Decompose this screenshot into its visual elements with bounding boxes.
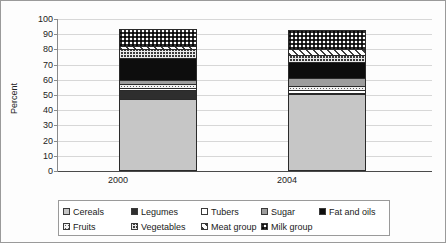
gridline-20: [58, 141, 432, 142]
y-tick-50: 50: [25, 91, 53, 99]
gridline-60: [58, 80, 432, 81]
y-axis-title: Percent: [9, 53, 23, 143]
legend-item-cereals[interactable]: Cereals: [63, 207, 131, 217]
y-tick-60: 60: [25, 76, 53, 84]
segment-cereals-2004[interactable]: [288, 94, 366, 171]
legend-swatch-icon: [319, 208, 326, 215]
legend-item-milk-group[interactable]: Milk group: [261, 222, 313, 232]
gridline-30: [58, 125, 432, 126]
gridline-50: [58, 95, 432, 96]
y-tick-90: 90: [25, 30, 53, 38]
segment-fat-and-oils-2004[interactable]: [288, 62, 366, 78]
legend-swatch-icon: [131, 223, 138, 230]
legend-swatch-icon: [63, 223, 70, 230]
segment-fruits-2000[interactable]: [119, 84, 197, 88]
segment-fruits-2004[interactable]: [288, 86, 366, 91]
segment-tubers-2004[interactable]: [288, 90, 366, 92]
legend-label: Fat and oils: [329, 207, 376, 217]
y-tick-80: 80: [25, 45, 53, 53]
legend-swatch-icon: [201, 223, 208, 230]
gridline-40: [58, 110, 432, 111]
legend-label: Vegetables: [141, 222, 186, 232]
segment-milk-group-2004[interactable]: [288, 30, 366, 49]
segment-sugar-2004[interactable]: [288, 78, 366, 86]
segment-fat-and-oils-2000[interactable]: [119, 58, 197, 80]
legend-item-meat-group[interactable]: Meat group: [201, 222, 261, 232]
legend-item-tubers[interactable]: Tubers: [201, 207, 261, 217]
y-tick-100: 100: [25, 15, 53, 23]
y-tick-40: 40: [25, 106, 53, 114]
y-tick-20: 20: [25, 137, 53, 145]
legend-swatch-icon: [201, 208, 208, 215]
bar-2000[interactable]: [119, 19, 197, 171]
chart-legend: CerealsLegumesTubersSugarFat and oils Fr…: [58, 200, 390, 236]
plot-area: Percent 100 90 80 70 60 50 40 30 20 10 0: [1, 1, 446, 197]
legend-item-fruits[interactable]: Fruits: [63, 222, 131, 232]
legend-swatch-icon: [261, 208, 268, 215]
y-axis-tick-labels: 100 90 80 70 60 50 40 30 20 10 0: [25, 19, 53, 171]
gridline-90: [58, 34, 432, 35]
legend-item-legumes[interactable]: Legumes: [131, 207, 201, 217]
bar-2004[interactable]: [288, 19, 366, 171]
legend-item-fat-and-oils[interactable]: Fat and oils: [319, 207, 376, 217]
legend-swatch-icon: [261, 223, 268, 230]
plot-axes: [57, 19, 432, 172]
segment-legumes-2000[interactable]: [119, 90, 197, 99]
segment-vegetables-2004[interactable]: [288, 55, 366, 63]
legend-label: Cereals: [73, 207, 104, 217]
y-tick-70: 70: [25, 61, 53, 69]
legend-label: Sugar: [271, 207, 295, 217]
legend-row-2: FruitsVegetablesMeat groupMilk group: [63, 219, 385, 234]
segment-milk-group-2000[interactable]: [119, 29, 197, 46]
gridline-100: [58, 19, 432, 20]
legend-item-vegetables[interactable]: Vegetables: [131, 222, 201, 232]
legend-label: Fruits: [73, 222, 96, 232]
chart-container: Percent 100 90 80 70 60 50 40 30 20 10 0: [0, 0, 446, 243]
legend-label: Legumes: [141, 207, 178, 217]
legend-swatch-icon: [63, 208, 70, 215]
segment-meat-group-2000[interactable]: [119, 46, 197, 50]
segment-cereals-2000[interactable]: [119, 99, 197, 171]
gridline-80: [58, 49, 432, 50]
y-tick-0: 0: [25, 167, 53, 175]
legend-item-sugar[interactable]: Sugar: [261, 207, 319, 217]
y-tick-10: 10: [25, 152, 53, 160]
x-label-2004: 2004: [242, 175, 332, 185]
segment-sugar-2000[interactable]: [119, 80, 197, 85]
segment-legumes-2004[interactable]: [288, 93, 366, 95]
gridline-10: [58, 156, 432, 157]
legend-label: Milk group: [271, 222, 313, 232]
segment-vegetables-2000[interactable]: [119, 49, 197, 57]
gridline-70: [58, 65, 432, 66]
legend-label: Meat group: [211, 222, 257, 232]
segment-meat-group-2004[interactable]: [288, 49, 366, 54]
segment-tubers-2000[interactable]: [119, 88, 197, 90]
legend-swatch-icon: [131, 208, 138, 215]
legend-row-1: CerealsLegumesTubersSugarFat and oils: [63, 204, 385, 219]
legend-label: Tubers: [211, 207, 239, 217]
y-tick-30: 30: [25, 121, 53, 129]
x-label-2000: 2000: [73, 175, 163, 185]
